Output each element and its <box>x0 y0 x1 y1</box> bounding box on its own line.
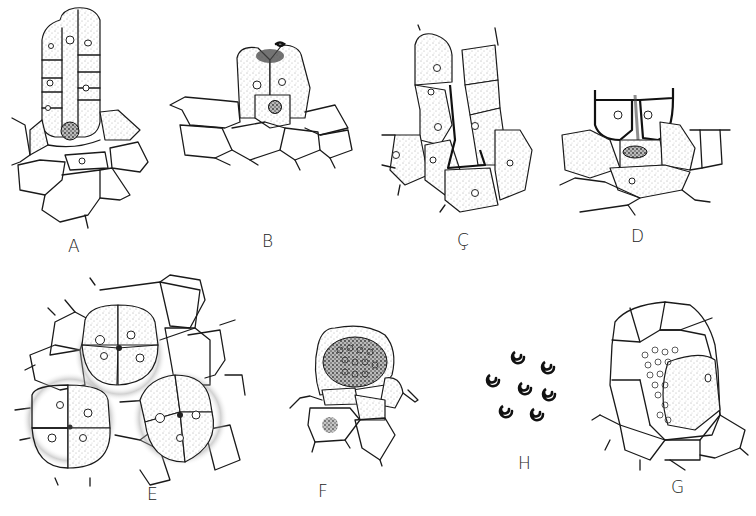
panel-label-c: Ç <box>457 230 469 250</box>
panel-f-drawing <box>290 326 418 466</box>
panel-c-drawing <box>382 25 532 212</box>
panel-label-g: G <box>671 477 684 497</box>
panel-g-drawing <box>592 302 748 470</box>
panel-label-f: F <box>318 481 328 501</box>
figure-plate: A B Ç D E F H G <box>0 0 756 516</box>
panel-d-drawing <box>560 88 730 215</box>
panel-label-d: D <box>631 226 644 246</box>
panel-b-drawing <box>170 43 352 171</box>
panel-label-h: H <box>518 453 531 473</box>
panel-a-drawing <box>12 8 148 228</box>
panel-e-drawing <box>15 275 245 486</box>
panel-label-b: B <box>262 231 273 251</box>
panel-label-a: A <box>68 236 80 256</box>
figure-drawing <box>0 0 756 516</box>
panel-label-e: E <box>147 484 158 504</box>
panel-h-drawing <box>487 352 555 420</box>
